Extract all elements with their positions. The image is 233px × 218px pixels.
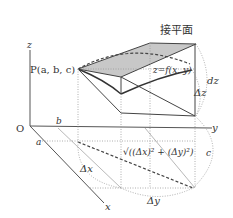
b-line — [58, 128, 121, 188]
delta-y-label: Δy — [146, 195, 160, 206]
c-label: c — [206, 148, 211, 158]
title-label: 接平面 — [160, 24, 193, 37]
origin-label: O — [16, 123, 24, 134]
z-axis-label: z — [26, 40, 32, 50]
tangent-plane-diagram: 接平面 z y x O P(a, b, c) z=f(x, y) a b c d… — [0, 0, 233, 218]
a-label: a — [36, 137, 41, 147]
distance-label: √((Δx)² + (Δy)²) — [123, 147, 194, 157]
point-p-label: P(a, b, c) — [30, 64, 75, 75]
delta-z-label: Δz — [193, 87, 207, 98]
dz-arc — [196, 44, 207, 116]
delta-x-label: Δx — [79, 163, 93, 174]
y-axis-label: y — [211, 122, 218, 133]
base-diag — [145, 128, 195, 188]
diagram-svg: 接平面 z y x O P(a, b, c) z=f(x, y) a b c d… — [0, 0, 233, 218]
surface-label: z=f(x, y) — [152, 65, 192, 75]
x-axis-label: x — [105, 201, 111, 212]
box-bottom — [121, 113, 195, 116]
box-diagonal — [121, 77, 195, 116]
b-label: b — [56, 116, 62, 126]
dz-label: dz — [207, 75, 219, 86]
